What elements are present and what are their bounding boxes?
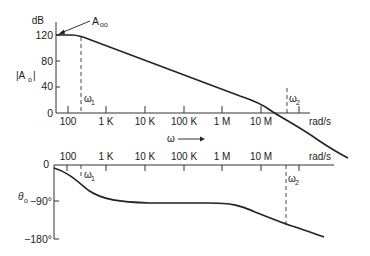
ytick-120: 120: [35, 29, 53, 41]
phase-omega2-label: ω 2: [288, 173, 299, 186]
phase-ytick-minus90: −90°: [30, 195, 52, 207]
phase-xtick-10k: 10 K: [135, 151, 156, 162]
phase-xtick-1m: 1 M: [214, 151, 231, 162]
xtick-10m: 10 M: [250, 116, 272, 127]
xtick-10k: 10 K: [135, 116, 156, 127]
aoo-annotation: A oo: [58, 15, 108, 35]
xtick-1m: 1 M: [214, 116, 231, 127]
omega-axis-label: ω: [167, 133, 205, 144]
xtick-100: 100: [60, 116, 77, 127]
phase-x-ticks: [67, 165, 299, 171]
bode-plot: dB 120 80 40 0 |A o | 100 1 K 10 K 100 K…: [0, 0, 370, 256]
svg-text:2: 2: [295, 179, 299, 186]
omega1-label: ω 1: [84, 93, 95, 106]
omega2-label: ω 2: [289, 93, 300, 106]
svg-text:o: o: [24, 197, 28, 204]
phase-xtick-1k: 1 K: [98, 151, 113, 162]
phase-plot: 0 −90° −180° θ o 100 1 K 10 K 100 K 1 M …: [18, 151, 334, 245]
phase-omega1-label: ω 1: [84, 169, 95, 182]
phase-x-unit-label: rad/s: [309, 151, 331, 162]
xtick-100k: 100 K: [171, 116, 197, 127]
phase-ytick-0: 0: [43, 158, 49, 170]
phase-xtick-100k: 100 K: [171, 151, 197, 162]
xtick-1k: 1 K: [98, 116, 113, 127]
svg-text:A: A: [92, 15, 99, 27]
x-unit-label: rad/s: [309, 116, 331, 127]
phase-xtick-100: 100: [60, 151, 77, 162]
svg-text:oo: oo: [100, 21, 108, 28]
ytick-80: 80: [41, 55, 53, 67]
magnitude-plot: dB 120 80 40 0 |A o | 100 1 K 10 K 100 K…: [16, 15, 348, 158]
svg-text:1: 1: [91, 175, 95, 182]
svg-text:1: 1: [91, 99, 95, 106]
phase-ytick-minus180: −180°: [24, 233, 52, 245]
phase-y-label: θ o: [18, 191, 28, 204]
svg-text:2: 2: [296, 99, 300, 106]
svg-text:ω: ω: [167, 133, 175, 144]
ytick-40: 40: [41, 80, 53, 92]
phase-xtick-10m: 10 M: [250, 151, 272, 162]
svg-text:|A: |A: [16, 70, 26, 81]
svg-text:o: o: [28, 76, 32, 83]
db-unit-label: dB: [32, 15, 45, 26]
magnitude-y-label: |A o |: [16, 70, 36, 83]
svg-text:|: |: [33, 70, 36, 81]
ytick-0: 0: [47, 107, 53, 119]
